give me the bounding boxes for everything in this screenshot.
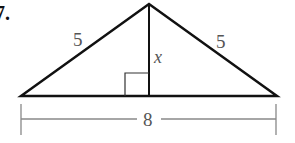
triangle-diagram: 7. 5 5 x 8	[0, 0, 295, 143]
right-angle-marker	[125, 73, 149, 96]
base-label: 8	[143, 109, 153, 130]
left-side-label: 5	[73, 29, 83, 50]
problem-number: 7.	[0, 2, 10, 24]
right-side-label: 5	[216, 31, 226, 52]
altitude-label: x	[153, 47, 162, 67]
